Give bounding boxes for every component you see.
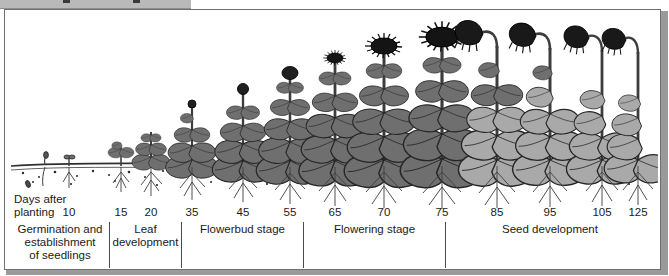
day-label-10: 10 — [53, 206, 85, 218]
day-label-15: 15 — [105, 206, 137, 218]
stage-band-leaf-development-line1: Leaf — [111, 223, 180, 236]
day-label-125: 125 — [621, 206, 655, 218]
day-label-35: 35 — [176, 206, 208, 218]
toolbar-button-glyph-2[interactable] — [133, 0, 140, 3]
day-label-20: 20 — [135, 206, 167, 218]
stage-band-seed-development: Seed development — [447, 223, 653, 236]
stage-band-flowering-line1: Flowering stage — [305, 223, 444, 236]
day-label-95: 95 — [534, 206, 566, 218]
band-divider-1 — [109, 222, 110, 268]
day-label-65: 65 — [319, 206, 351, 218]
day-label-75: 75 — [426, 206, 458, 218]
day-label-85: 85 — [481, 206, 513, 218]
axis-and-stage-bands: Days after planting Days after planting … — [5, 10, 658, 268]
band-divider-4 — [445, 222, 446, 268]
axis-caption-text-1: Days after — [14, 193, 66, 205]
stage-band-leaf-development: Leaf development — [111, 223, 180, 249]
band-divider-3 — [303, 222, 304, 268]
stage-band-flowerbud: Flowerbud stage — [183, 223, 302, 236]
stage-band-germination-line1: Germination and — [13, 223, 107, 236]
stage-band-seed-development-line1: Seed development — [447, 223, 653, 236]
toolbar-button-glyph-1[interactable] — [63, 0, 70, 3]
day-label-45: 45 — [227, 206, 259, 218]
stage-band-germination-line3: of seedlings — [13, 249, 107, 262]
cut-off-toolbar-strip — [0, 0, 191, 9]
stage-band-flowering: Flowering stage — [305, 223, 444, 236]
day-label-105: 105 — [585, 206, 619, 218]
day-label-70: 70 — [368, 206, 400, 218]
stage-band-germination: Germination and establishment of seedlin… — [13, 223, 107, 262]
day-label-55: 55 — [274, 206, 306, 218]
axis-caption-text-2: planting — [14, 206, 54, 218]
stage-band-germination-line2: establishment — [13, 236, 107, 249]
band-divider-2 — [181, 222, 182, 268]
stage-band-leaf-development-line2: development — [111, 236, 180, 249]
sunflower-growth-stages-figure: Days after planting Days after planting … — [4, 9, 661, 270]
stage-band-flowerbud-line1: Flowerbud stage — [183, 223, 302, 236]
